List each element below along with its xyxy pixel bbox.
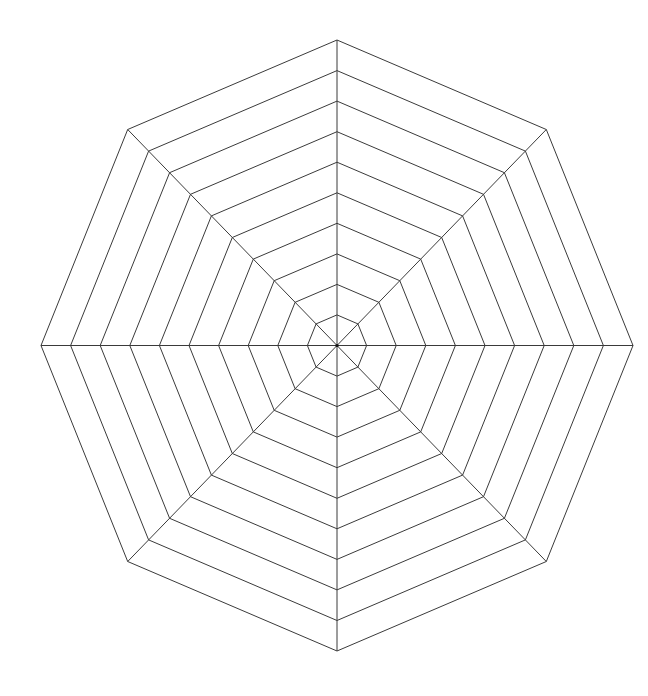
axis-spoke-8 [128,130,337,346]
axis-spoke-6 [128,346,337,562]
center-point [335,344,338,347]
axis-spoke-4 [337,346,546,562]
radar-chart-grid [0,0,648,696]
axis-spoke-2 [337,130,546,346]
